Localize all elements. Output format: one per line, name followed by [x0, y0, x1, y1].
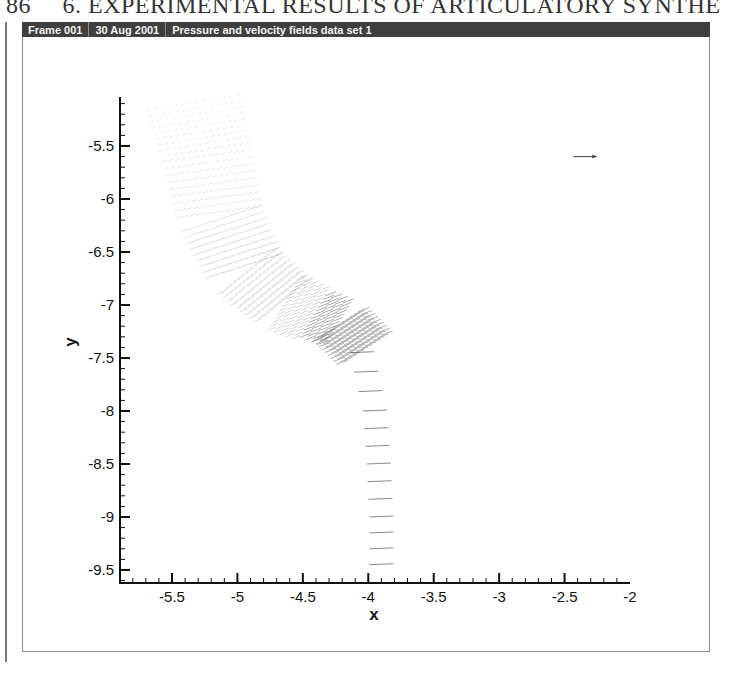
x-tick-label: -5: [231, 588, 244, 605]
y-tick-label: -8: [101, 402, 114, 419]
y-tick-label: -9: [101, 508, 114, 525]
x-tick-label: -2.5: [552, 588, 578, 605]
x-tick-label: -3.5: [421, 588, 447, 605]
x-tick-label: -5.5: [159, 588, 185, 605]
velocity-vectors: [147, 94, 394, 564]
y-tick-label: -6.5: [88, 243, 114, 260]
vector-plot: -5.5-5-4.5-4-3.5-3-2.5-2 -5.5-6-6.5-7-7.…: [0, 0, 729, 673]
x-tick-label: -4: [362, 588, 375, 605]
y-tick-label: -5.5: [88, 137, 114, 154]
x-axis-title: x: [369, 605, 379, 624]
y-tick-labels: -5.5-6-6.5-7-7.5-8-8.5-9-9.5: [88, 137, 114, 578]
x-tick-label: -3: [492, 588, 505, 605]
axes: [119, 97, 630, 584]
y-tick-label: -7: [101, 296, 114, 313]
y-tick-label: -9.5: [88, 561, 114, 578]
y-tick-label: -6: [101, 190, 114, 207]
x-tick-label: -4.5: [290, 588, 316, 605]
y-tick-label: -7.5: [88, 349, 114, 366]
y-axis-title: y: [61, 337, 80, 347]
y-tick-label: -8.5: [88, 455, 114, 472]
x-tick-labels: -5.5-5-4.5-4-3.5-3-2.5-2: [159, 588, 637, 605]
x-tick-label: -2: [623, 588, 636, 605]
reference-vector-arrow: [573, 155, 597, 159]
